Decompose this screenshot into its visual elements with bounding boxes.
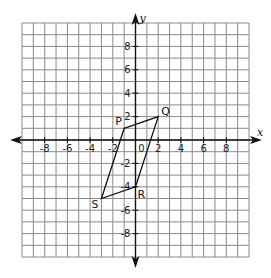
x-tick-label: 8 (223, 143, 229, 154)
y-tick-label: -6 (121, 205, 131, 216)
axes (10, 13, 262, 268)
y-tick-label: -8 (121, 228, 131, 239)
vertex-label-p: P (115, 115, 122, 128)
vertex-label-s: S (91, 198, 98, 211)
y-tick-label: 8 (124, 41, 130, 52)
y-tick-label: 4 (124, 88, 130, 99)
x-tick-label: 0 (138, 143, 144, 154)
y-tick-label: 6 (124, 64, 130, 75)
coordinate-plane: -8-6-4-2024688642-2-4-6-8 xyPQRS (0, 0, 271, 278)
vertex-label-q: Q (161, 105, 170, 118)
x-tick-label: 6 (200, 143, 206, 154)
y-tick-label: -2 (121, 158, 131, 169)
x-tick-label: 4 (178, 143, 184, 154)
x-tick-label: 2 (155, 143, 161, 154)
x-axis-label: x (257, 126, 264, 139)
y-tick-label: 2 (124, 111, 130, 122)
y-axis-label: y (139, 12, 147, 25)
x-tick-label: -6 (62, 143, 72, 154)
x-tick-label: -8 (40, 143, 50, 154)
vertex-label-r: R (138, 188, 146, 201)
x-tick-label: -4 (85, 143, 95, 154)
